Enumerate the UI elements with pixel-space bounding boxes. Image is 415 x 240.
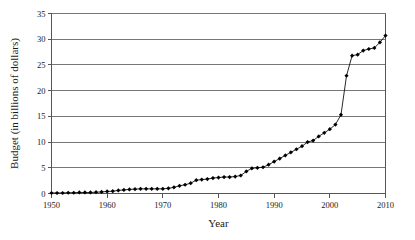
y-tick-label: 15 — [37, 111, 46, 121]
x-tick-label: 2010 — [377, 200, 394, 210]
y-tick-label: 35 — [37, 9, 46, 19]
y-tick-label: 20 — [37, 86, 46, 96]
chart-canvas: 05101520253035 1950196019701980199020002… — [0, 0, 415, 240]
budget-line-chart: 05101520253035 1950196019701980199020002… — [0, 0, 415, 240]
x-tick-label: 1950 — [43, 200, 60, 210]
x-tick-label: 1960 — [99, 200, 116, 210]
y-tick-label: 0 — [41, 189, 45, 199]
y-tick-label: 10 — [37, 137, 46, 147]
x-tick-label: 1980 — [210, 200, 227, 210]
y-tick-label: 25 — [37, 60, 46, 70]
y-tick-label: 30 — [37, 34, 46, 44]
chart-background — [0, 0, 415, 240]
x-axis-title: Year — [208, 217, 229, 229]
x-tick-label: 1990 — [266, 200, 283, 210]
y-tick-label: 5 — [41, 163, 45, 173]
y-axis-title: Budget (in billions of dollars) — [8, 38, 21, 169]
x-tick-label: 2000 — [321, 200, 338, 210]
x-tick-label: 1970 — [154, 200, 171, 210]
